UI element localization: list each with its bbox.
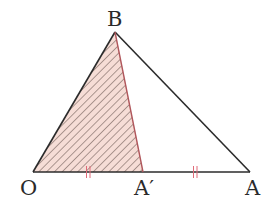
label-B: B: [107, 7, 122, 31]
shaded-triangle-OBA-prime: [33, 32, 143, 172]
label-O: O: [20, 176, 37, 200]
triangle-diagram: B O A′ A: [0, 0, 279, 218]
label-A-prime: A′: [133, 176, 154, 200]
label-A: A: [244, 176, 261, 200]
